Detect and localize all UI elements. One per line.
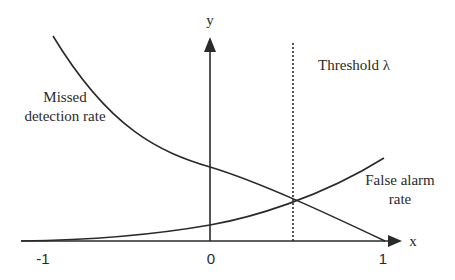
- false-alarm-curve: [21, 158, 384, 241]
- tick-label-neg1: -1: [36, 250, 49, 267]
- false-alarm-label-line1: False alarm: [365, 172, 435, 188]
- false-alarm-label-line2: rate: [389, 191, 412, 207]
- tick-label-1: 1: [379, 250, 387, 267]
- x-axis-arrowhead-icon: [388, 235, 402, 247]
- detection-tradeoff-diagram: y x -1 0 1 Threshold λ Missed detection …: [0, 0, 455, 280]
- x-axis-label: x: [409, 233, 417, 249]
- y-axis-arrowhead-icon: [204, 37, 216, 52]
- missed-detection-label-line1: Missed: [43, 89, 87, 105]
- missed-detection-label-line2: detection rate: [24, 108, 106, 124]
- tick-label-0: 0: [207, 250, 215, 267]
- threshold-label: Threshold λ: [318, 57, 391, 73]
- y-axis-label: y: [206, 12, 214, 28]
